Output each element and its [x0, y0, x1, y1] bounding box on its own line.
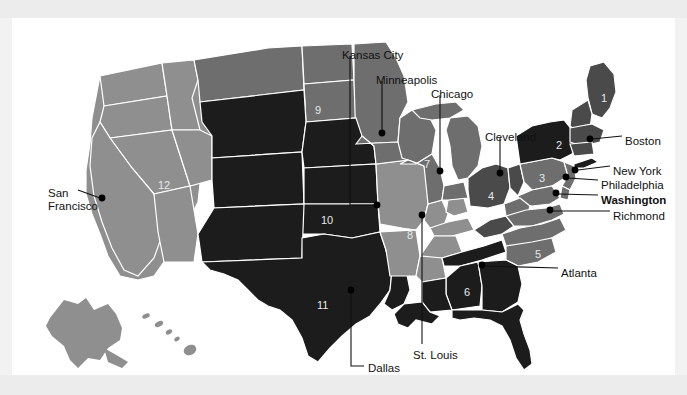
district-number-8[interactable]: 8 — [407, 229, 413, 241]
hawaii-islands — [141, 312, 198, 357]
atlanta-dot[interactable] — [479, 262, 486, 269]
district-number-11[interactable]: 11 — [317, 299, 328, 311]
city-label-richmond[interactable]: Richmond — [613, 210, 665, 223]
district-number-9[interactable]: 9 — [315, 104, 321, 116]
city-label-new-york[interactable]: New York — [613, 165, 662, 178]
philadelphia-dot[interactable] — [563, 174, 570, 181]
district-number-2[interactable]: 2 — [556, 139, 562, 151]
chicago-dot[interactable] — [437, 168, 444, 175]
page-band-bottom — [0, 375, 687, 395]
city-label-chicago[interactable]: Chicago — [431, 88, 473, 101]
new-york-dot[interactable] — [572, 167, 579, 174]
richmond-dot[interactable] — [547, 207, 554, 214]
district-number-10[interactable]: 10 — [321, 214, 333, 226]
district-number-7[interactable]: 7 — [424, 158, 430, 170]
city-label-washington[interactable]: Washington — [601, 194, 666, 207]
city-label-st-louis[interactable]: St. Louis — [413, 349, 458, 362]
page-band-top — [0, 0, 687, 18]
cleveland-dot[interactable] — [497, 170, 504, 177]
district-number-3[interactable]: 3 — [539, 172, 545, 184]
district-12-region[interactable] — [46, 60, 218, 368]
map-graphic — [12, 18, 675, 375]
district-1-region[interactable] — [570, 62, 616, 156]
district-number-5[interactable]: 5 — [535, 248, 541, 260]
district-number-12[interactable]: 12 — [158, 179, 170, 191]
san-francisco-dot[interactable] — [99, 195, 106, 202]
district-number-1[interactable]: 1 — [601, 92, 607, 104]
city-label-cleveland[interactable]: Cleveland — [485, 131, 536, 144]
city-label-philadelphia[interactable]: Philadelphia — [601, 179, 664, 192]
st-louis-dot[interactable] — [419, 212, 426, 219]
city-label-dallas[interactable]: Dallas — [368, 362, 400, 375]
city-label-san-francisco[interactable]: San Francisco — [48, 187, 98, 212]
us-federal-reserve-district-map: Kansas CityMinneapolisChicagoClevelandBo… — [12, 18, 675, 375]
city-label-atlanta[interactable]: Atlanta — [561, 267, 597, 280]
dallas-dot[interactable] — [348, 287, 355, 294]
district-number-4[interactable]: 4 — [488, 190, 494, 202]
city-label-minneapolis[interactable]: Minneapolis — [376, 74, 437, 87]
kansas-city-dot[interactable] — [374, 202, 381, 209]
figure-page: Kansas CityMinneapolisChicagoClevelandBo… — [0, 0, 687, 395]
washington-dot[interactable] — [553, 190, 560, 197]
city-label-boston[interactable]: Boston — [625, 135, 661, 148]
city-label-kansas-city[interactable]: Kansas City — [342, 49, 403, 62]
boston-dot[interactable] — [587, 136, 594, 143]
minneapolis-dot[interactable] — [379, 130, 386, 137]
district-number-6[interactable]: 6 — [464, 286, 470, 298]
